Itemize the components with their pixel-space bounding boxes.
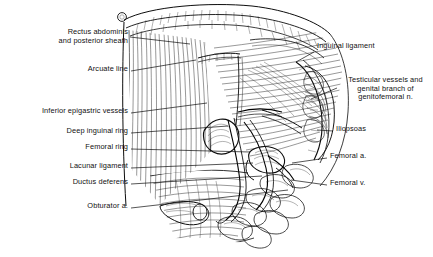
cut-edge-marker — [118, 13, 127, 22]
label-testicular-vessels-line3: genitofemoral n. — [338, 93, 433, 102]
label-obturator-a: Obturator a. — [0, 202, 128, 211]
anatomical-figure: Rectus abdominis and posterior sheath Ar… — [0, 0, 433, 257]
label-arcuate-line: Arcuate line — [0, 65, 128, 74]
rectus-muscle — [128, 30, 211, 210]
label-rectus-abdominis-line2: and posterior sheath — [0, 37, 128, 46]
label-inferior-epigastric-vessels: Inferior epigastric vessels — [0, 107, 128, 116]
label-femoral-ring: Femoral ring — [0, 143, 128, 152]
deep-ring-opening — [203, 119, 239, 154]
label-deep-inguinal-ring: Deep inguinal ring — [0, 127, 128, 136]
label-testicular-vessels: Testicular vessels and genital branch of… — [338, 76, 433, 102]
label-femoral-a: Femoral a. — [330, 152, 366, 161]
rectus-sheath-arch — [124, 5, 330, 50]
label-lacunar-ligament: Lacunar ligament — [0, 162, 128, 171]
label-ductus-deferens: Ductus deferens — [0, 178, 128, 187]
label-rectus-abdominis: Rectus abdominis and posterior sheath — [0, 28, 128, 45]
iliopsoas-muscle — [303, 66, 335, 160]
label-femoral-v: Femoral v. — [330, 179, 365, 188]
label-iliopsoas: Iliopsoas — [336, 125, 366, 134]
label-inguinal-ligament: Inguinal ligament — [317, 42, 375, 51]
lymph-node-cluster — [218, 156, 313, 248]
lower-field-hatching — [150, 170, 254, 244]
testicular-vessels — [238, 109, 302, 134]
